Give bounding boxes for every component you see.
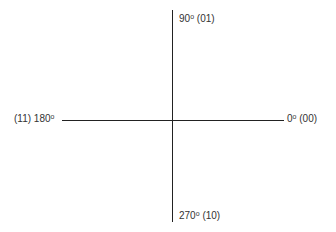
degree-symbol: o [293,113,297,120]
angle-value: 180 [34,113,51,124]
label-0-degrees: 0o (00) [287,113,317,125]
angle-value: 0 [287,113,293,124]
label-270-degrees: 270o (10) [179,210,220,222]
horizontal-axis [62,120,284,121]
label-90-degrees: 90o (01) [179,13,215,25]
phase-code: (00) [299,113,317,124]
degree-symbol: o [190,13,194,20]
phase-code: (11) [14,113,31,124]
degree-symbol: o [51,113,55,120]
degree-symbol: o [196,210,200,217]
phase-code: (10) [202,210,220,221]
label-180-degrees: (11) 180o [14,113,54,125]
angle-value: 270 [179,210,196,221]
angle-value: 90 [179,13,190,24]
vertical-axis [172,10,173,222]
phase-code: (01) [197,13,215,24]
